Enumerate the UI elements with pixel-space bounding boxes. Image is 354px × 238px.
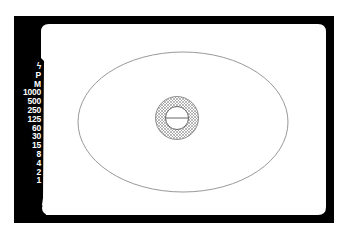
- scale-1: 1: [36, 176, 41, 185]
- viewfinder-graphic: [0, 0, 354, 238]
- viewfinder-display: ϟ P M 1000 500 250 125 60 30 15 8 4 2 1: [0, 0, 354, 238]
- shutter-speed-scale: ϟ P M 1000 500 250 125 60 30 15 8 4 2 1: [14, 62, 41, 185]
